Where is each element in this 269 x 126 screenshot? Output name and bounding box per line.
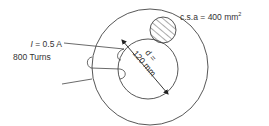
current-leader-line	[64, 43, 124, 49]
coil-loop-lower	[120, 69, 125, 79]
cross-section-circle	[150, 17, 176, 43]
turns-label: 800 Turns	[13, 52, 51, 62]
current-label: I = 0.5 A	[31, 39, 63, 49]
toroid-diagram: I = 0.5 A 800 Turns c.s.a = 400 mm2 d = …	[0, 0, 269, 126]
csa-label: c.s.a = 400 mm2	[180, 11, 241, 22]
coil-lead-wire	[62, 79, 92, 84]
coil-winding-line	[91, 68, 120, 69]
diameter-label: d = 120 mm	[131, 42, 166, 78]
coil-loop-upper	[118, 49, 124, 60]
coil-loop-outer	[87, 57, 92, 68]
